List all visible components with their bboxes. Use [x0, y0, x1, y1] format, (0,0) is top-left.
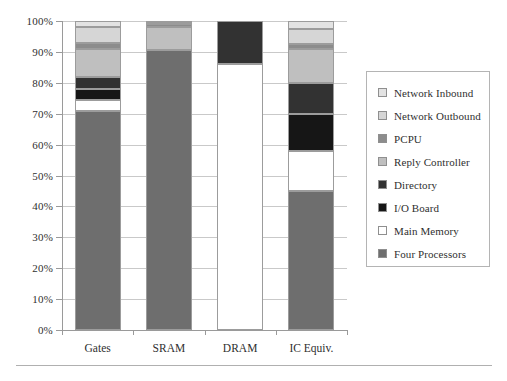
legend-swatch-icon	[378, 134, 387, 143]
bar-segment-i-o-board	[288, 114, 334, 151]
bar-dram	[217, 21, 263, 330]
y-tick-label: 90%	[32, 46, 53, 58]
bar-segment-pcpu	[146, 24, 192, 27]
y-tick-label: 30%	[32, 231, 53, 243]
x-tick-label-gates: Gates	[85, 342, 111, 354]
legend-label: Directory	[394, 179, 437, 191]
legend-item: Four Processors	[378, 242, 489, 265]
legend-item: Directory	[378, 173, 489, 196]
legend-swatch-icon	[378, 203, 387, 212]
x-tick-label-dram: DRAM	[223, 342, 258, 354]
bar-segment-four-processors	[75, 111, 121, 330]
bar-segment-network-inbound	[75, 21, 121, 27]
legend-item: I/O Board	[378, 196, 489, 219]
bar-segment-network-inbound	[146, 21, 192, 23]
footer-divider	[16, 365, 492, 366]
bar-segment-reply-controller	[75, 49, 121, 77]
legend-swatch-icon	[378, 249, 387, 258]
legend-label: Four Processors	[394, 248, 466, 260]
bar-segment-reply-controller	[288, 49, 334, 83]
chart-figure: 100%90%80%70%60%50%40%30%20%10%0% GatesS…	[0, 0, 507, 381]
legend-swatch-icon	[378, 157, 387, 166]
bar-segment-network-inbound	[288, 21, 334, 29]
bar-segment-four-processors	[288, 191, 334, 330]
bar-segment-pcpu	[75, 43, 121, 49]
legend-swatch-icon	[378, 226, 387, 235]
legend-label: Network Outbound	[394, 110, 481, 122]
bar-segment-four-processors	[146, 50, 192, 330]
bar-segment-main-memory	[288, 151, 334, 191]
legend-item: Network Outbound	[378, 104, 489, 127]
legend-item: PCPU	[378, 127, 489, 150]
y-tick-label: 0%	[38, 324, 53, 336]
y-tick-label: 40%	[32, 200, 53, 212]
x-tick-label-ic-equiv: IC Equiv.	[289, 342, 333, 354]
bar-segment-directory	[75, 77, 121, 89]
y-axis-line	[62, 21, 63, 331]
chart-legend: Network InboundNetwork OutboundPCPUReply…	[366, 71, 490, 267]
legend-label: PCPU	[394, 133, 422, 145]
bar-segment-i-o-board	[75, 89, 121, 100]
legend-label: Reply Controller	[394, 156, 470, 168]
plot-area: 100%90%80%70%60%50%40%30%20%10%0% GatesS…	[62, 21, 347, 330]
y-tick-label: 10%	[32, 293, 53, 305]
bar-gates	[75, 21, 121, 330]
y-tick-label: 50%	[32, 170, 53, 182]
x-tick-label-sram: SRAM	[153, 342, 186, 354]
x-axis-line	[62, 330, 348, 331]
y-tick-label: 100%	[27, 15, 53, 27]
legend-item: Network Inbound	[378, 81, 489, 104]
legend-label: Network Inbound	[394, 87, 473, 99]
bar-segment-main-memory	[75, 100, 121, 111]
y-tick-label: 80%	[32, 77, 53, 89]
legend-swatch-icon	[378, 180, 387, 189]
bar-segment-pcpu	[288, 44, 334, 49]
legend-swatch-icon	[378, 88, 387, 97]
legend-label: Main Memory	[394, 225, 459, 237]
legend-label: I/O Board	[394, 202, 439, 214]
bar-sram	[146, 21, 192, 330]
bar-segment-directory	[288, 83, 334, 114]
legend-item: Main Memory	[378, 219, 489, 242]
bar-segment-main-memory	[217, 64, 263, 330]
y-tick-label: 20%	[32, 262, 53, 274]
bar-segment-network-outbound	[288, 29, 334, 44]
y-tick-label: 70%	[32, 108, 53, 120]
bar-segment-directory	[217, 21, 263, 64]
y-tick-label: 60%	[32, 139, 53, 151]
bar-ic-equiv	[288, 21, 334, 330]
bar-segment-reply-controller	[146, 27, 192, 50]
legend-item: Reply Controller	[378, 150, 489, 173]
bar-segment-network-outbound	[75, 27, 121, 42]
legend-swatch-icon	[378, 111, 387, 120]
